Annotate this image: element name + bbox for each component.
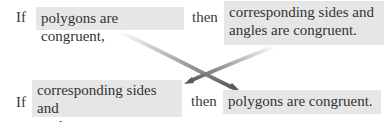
top-hypothesis-box: polygons are congruent, [36, 7, 184, 30]
bottom-hypothesis-line1: corresponding sides and [37, 81, 177, 117]
bottom-hypothesis-box: corresponding sides and angles are congr… [32, 80, 182, 117]
bottom-conclusion-box: polygons are congruent. [223, 90, 381, 114]
bottom-conclusion-text: polygons are congruent. [228, 93, 373, 109]
top-if-label: If [16, 9, 26, 26]
bottom-if-label: If [16, 94, 26, 111]
top-conclusion-line1: corresponding sides and [229, 3, 379, 21]
arrow-conclusion-to-hypothesis [184, 46, 275, 84]
top-conclusion-box: corresponding sides and angles are congr… [224, 1, 384, 45]
bottom-hypothesis-line2: angles are congruent, [37, 117, 177, 122]
top-then-label: then [192, 9, 218, 26]
bottom-then-label: then [191, 93, 217, 110]
top-conclusion-line2: angles are congruent. [229, 21, 379, 39]
